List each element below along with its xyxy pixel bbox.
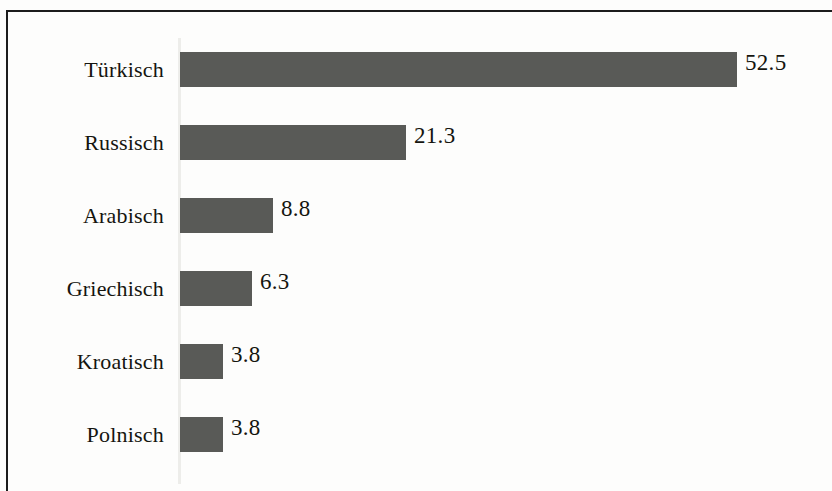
- bar-row: Russisch 21.3: [0, 106, 832, 179]
- bar-row: Polnisch 3.8: [0, 398, 832, 471]
- category-label: Kroatisch: [0, 349, 164, 375]
- value-label: 3.8: [231, 415, 261, 441]
- value-label: 21.3: [414, 123, 455, 149]
- bar: [180, 198, 273, 233]
- value-label: 6.3: [260, 269, 290, 295]
- bar-chart-figure: Türkisch 52.5 Russisch 21.3 Arabisch 8.8…: [0, 0, 832, 491]
- value-label: 52.5: [745, 50, 786, 76]
- category-label: Türkisch: [0, 57, 164, 83]
- category-label: Arabisch: [0, 203, 164, 229]
- category-label: Polnisch: [0, 422, 164, 448]
- bar-row: Türkisch 52.5: [0, 33, 832, 106]
- category-label: Russisch: [0, 130, 164, 156]
- bar-row: Arabisch 8.8: [0, 179, 832, 252]
- bar: [180, 271, 252, 306]
- bar: [180, 344, 223, 379]
- value-label: 3.8: [231, 342, 261, 368]
- bar-row: Kroatisch 3.8: [0, 325, 832, 398]
- category-label: Griechisch: [0, 276, 164, 302]
- bar: [180, 417, 223, 452]
- plot-area: Türkisch 52.5 Russisch 21.3 Arabisch 8.8…: [0, 12, 832, 491]
- bar: [180, 52, 737, 87]
- value-label: 8.8: [281, 196, 311, 222]
- bar-row: Griechisch 6.3: [0, 252, 832, 325]
- bar: [180, 125, 406, 160]
